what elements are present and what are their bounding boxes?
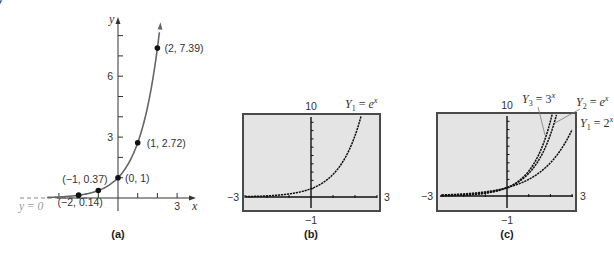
legend-y1-label: Y1 = ex xyxy=(345,95,378,113)
data-point xyxy=(135,140,141,146)
panel-b-caption: (b) xyxy=(304,228,318,240)
legend-text-part: = xyxy=(356,97,369,111)
legend-y3-label: Y3 = 3x xyxy=(522,90,555,108)
data-point-label: (2, 7.39) xyxy=(164,42,203,54)
y-tick-label: 3 xyxy=(107,131,113,143)
y-tick-label: 6 xyxy=(107,70,113,82)
clipped-text-fragment: y = xyxy=(0,0,14,6)
xmin-label: −3 xyxy=(227,191,239,203)
x-axis-label: x xyxy=(191,199,198,213)
panel-c-calculator-screen: −3310−1Y3 = 3xY2 = exY1 = 2x xyxy=(421,90,613,226)
ymin-label: −1 xyxy=(501,214,513,226)
xmax-label: 3 xyxy=(580,190,586,202)
legend-y1-label: Y1 = 2x xyxy=(580,114,613,132)
legend-text-part: x xyxy=(608,114,613,124)
curve-arrow-icon xyxy=(158,22,163,30)
legend-text-part: x xyxy=(604,93,609,103)
data-point-label: (0, 1) xyxy=(125,172,150,184)
panel-a-caption: (a) xyxy=(111,228,125,240)
data-point xyxy=(115,175,121,181)
ymin-label: −1 xyxy=(305,214,317,226)
y-axis-arrow-icon xyxy=(116,17,121,24)
legend-text-part: x xyxy=(550,90,555,100)
legend-text-part: = xyxy=(587,95,600,109)
y-axis-label: y xyxy=(108,12,115,26)
figure-canvas: y = 336xyy = 0(−2, 0.14)(−1, 0.37)(0, 1)… xyxy=(0,0,614,258)
ymax-label: 10 xyxy=(305,100,317,112)
data-point xyxy=(96,188,102,194)
xmin-label: −3 xyxy=(421,190,433,202)
data-point-label: (−2, 0.14) xyxy=(58,196,103,208)
legend-text-part: x xyxy=(373,95,378,105)
ymax-label: 10 xyxy=(501,99,513,111)
legend-y2-label: Y2 = ex xyxy=(576,93,609,111)
legend-text-part: = 3 xyxy=(533,92,552,106)
panel-b-calculator-screen: −3310−1Y1 = ex xyxy=(227,95,390,226)
data-point xyxy=(155,45,161,51)
data-point-label: (−1, 0.37) xyxy=(62,173,107,185)
data-point-label: (1, 2.72) xyxy=(147,137,186,149)
asymptote-label: y = 0 xyxy=(18,200,44,213)
panel-c-caption: (c) xyxy=(500,228,514,240)
xmax-label: 3 xyxy=(384,191,390,203)
x-tick-label: 3 xyxy=(174,200,180,212)
legend-text-part: = 2 xyxy=(591,116,610,130)
panel-a-graph: 336xyy = 0(−2, 0.14)(−1, 0.37)(0, 1)(1, … xyxy=(18,12,204,213)
